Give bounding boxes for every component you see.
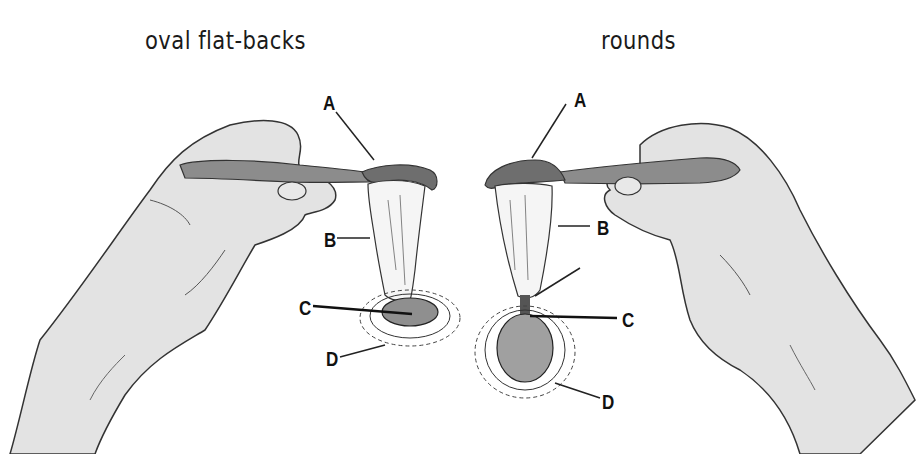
right-label-b: B xyxy=(597,217,609,240)
illustration xyxy=(0,0,924,454)
right-label-a: A xyxy=(574,89,586,112)
left-fabric xyxy=(368,181,425,301)
left-label-c: C xyxy=(299,297,311,320)
right-label-d: D xyxy=(602,391,614,414)
title-rounds: rounds xyxy=(601,27,676,55)
right-fabric xyxy=(495,183,552,298)
title-oval-flat-backs: oval flat-backs xyxy=(145,27,306,55)
left-label-d: D xyxy=(326,348,338,371)
right-stone xyxy=(497,314,553,382)
left-hand-illustration xyxy=(10,112,460,454)
left-label-b: B xyxy=(324,229,336,252)
right-label-c: C xyxy=(622,309,634,332)
right-hand-illustration xyxy=(475,104,915,454)
left-label-a: A xyxy=(323,92,335,115)
right-spoon-handle xyxy=(560,158,740,184)
